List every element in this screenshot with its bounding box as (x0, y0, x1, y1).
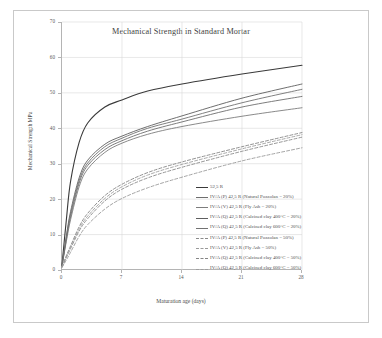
legend-line-swatch (196, 204, 208, 210)
y-tick-label: 50 (31, 90, 55, 95)
y-tick-label: 30 (31, 161, 55, 166)
legend-item[interactable]: IV/A (Q) 42,5 R (Calcined clay 600°C = 2… (196, 223, 346, 233)
y-tick-label: 40 (31, 126, 55, 131)
legend-item-label: IV/A (V) 42,5 R (Fly Ash = 50%) (210, 246, 276, 251)
legend-item[interactable]: IV/A (Q) 42,5 R (Calcined clay 600°C = 5… (196, 264, 346, 274)
legend-line-swatch (196, 184, 208, 190)
y-tick-label: 60 (31, 55, 55, 60)
chart-figure: Mechanical Strength in Standard Mortar M… (0, 0, 382, 338)
legend-line-swatch (196, 225, 208, 231)
legend-item-label: IV/A (Q) 42,5 R (Calcined clay 400°C = 2… (210, 215, 301, 220)
x-axis-label: Maturation age (days) (61, 298, 301, 304)
x-tick-mark (121, 270, 122, 273)
legend-line-swatch (196, 255, 208, 261)
legend-item[interactable]: IV/A (P) 42,5 R (Natural Pozzolan = 50%) (196, 233, 346, 243)
x-tick-label: 0 (49, 275, 73, 280)
legend-line-swatch (196, 194, 208, 200)
legend-item-label: IV/A (Q) 42,5 R (Calcined clay 400°C = 5… (210, 256, 301, 261)
y-tick-label: 20 (31, 197, 55, 202)
x-tick-mark (181, 270, 182, 273)
x-tick-mark (61, 270, 62, 273)
legend-item[interactable]: 52,5 R (196, 182, 346, 192)
legend-line-swatch (196, 215, 208, 221)
legend-item[interactable]: IV/A (V) 42,5 R (Fly Ash = 20%) (196, 202, 346, 212)
legend-line-swatch (196, 245, 208, 251)
legend-item[interactable]: IV/A (Q) 42,5 R (Calcined clay 400°C = 2… (196, 213, 346, 223)
legend-item-label: IV/A (P) 42,5 R (Natural Pozzolan = 50%) (210, 236, 294, 241)
legend-item-label: IV/A (Q) 42,5 R (Calcined clay 600°C = 2… (210, 225, 301, 230)
chart-legend: 52,5 RIV/A (P) 42,5 R (Natural Pozzolan … (196, 182, 346, 274)
y-tick-label: 0 (31, 267, 55, 272)
y-tick-label: 10 (31, 232, 55, 237)
legend-item[interactable]: IV/A (Q) 42,5 R (Calcined clay 400°C = 5… (196, 253, 346, 263)
x-tick-label: 28 (289, 275, 313, 280)
legend-item[interactable]: IV/A (P) 42,5 R (Natural Pozzolan = 20%) (196, 192, 346, 202)
legend-item-label: IV/A (V) 42,5 R (Fly Ash = 20%) (210, 205, 276, 210)
y-tick-label: 70 (31, 19, 55, 24)
legend-line-swatch (196, 266, 208, 272)
x-tick-label: 14 (169, 275, 193, 280)
legend-item-label: IV/A (P) 42,5 R (Natural Pozzolan = 20%) (210, 195, 294, 200)
legend-item-label: 52,5 R (210, 185, 223, 190)
x-tick-label: 21 (229, 275, 253, 280)
y-axis-label: Mechanical Strength MPa (27, 81, 33, 201)
legend-line-swatch (196, 235, 208, 241)
x-tick-label: 7 (109, 275, 133, 280)
legend-item-label: IV/A (Q) 42,5 R (Calcined clay 600°C = 5… (210, 266, 301, 271)
legend-item[interactable]: IV/A (V) 42,5 R (Fly Ash = 50%) (196, 243, 346, 253)
